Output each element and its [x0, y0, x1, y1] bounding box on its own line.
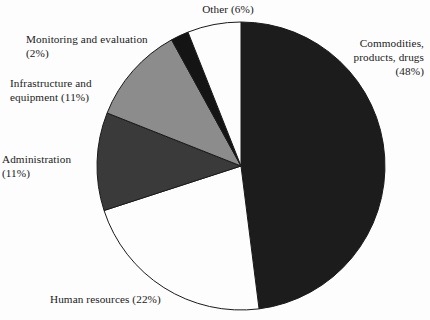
slice-label-human-resources: Human resources (22%) [50, 292, 210, 306]
slice-label-administration: Administration (11%) [2, 152, 108, 180]
slice-label-other: Other (6%) [178, 2, 278, 16]
pie-chart-figure: Commodities, products, drugs (48%) Monit… [0, 0, 430, 320]
slice-label-infrastructure-and-equipment: Infrastructure and equipment (11%) [10, 76, 132, 104]
slice-label-commodities: Commodities, products, drugs (48%) [292, 36, 424, 78]
slice-label-monitoring-and-evaluation: Monitoring and evaluation (2%) [26, 32, 178, 60]
